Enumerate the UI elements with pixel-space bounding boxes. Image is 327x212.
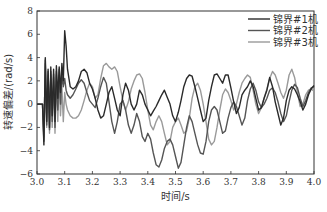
x-tick-label: 3.4 bbox=[141, 177, 156, 187]
chart: 3.03.13.23.33.43.53.63.73.83.94.0 86420−… bbox=[0, 0, 327, 212]
x-tick-label: 4.0 bbox=[307, 177, 322, 187]
legend-label-2: 锦界#2机 bbox=[273, 24, 318, 36]
series-layer bbox=[37, 31, 314, 168]
y-tick-label: −2 bbox=[20, 122, 33, 132]
x-axis-title: 时间/s bbox=[161, 190, 190, 202]
x-tick-label: 3.9 bbox=[279, 177, 294, 187]
y-tick-label: −4 bbox=[20, 146, 34, 156]
x-tick-label: 3.1 bbox=[58, 177, 72, 187]
y-tick-label: 6 bbox=[27, 29, 33, 39]
x-tick-label: 3.2 bbox=[85, 177, 99, 187]
y-axis-title: 转速偏差/(rad/s) bbox=[2, 54, 14, 130]
series-line-2 bbox=[37, 60, 314, 168]
x-tick-label: 3.5 bbox=[168, 177, 183, 187]
x-tick-label: 3.3 bbox=[113, 177, 128, 187]
y-tick-label: 8 bbox=[27, 6, 33, 16]
legend-label-1: 锦界#1机 bbox=[273, 13, 318, 25]
y-tick-label: 4 bbox=[27, 53, 33, 63]
y-tick-label: 2 bbox=[27, 76, 33, 86]
x-tick-label: 3.7 bbox=[224, 177, 239, 187]
series-line-1 bbox=[37, 31, 314, 145]
legend-label-3: 锦界#3机 bbox=[273, 36, 318, 48]
x-tick-label: 3.6 bbox=[196, 177, 211, 187]
y-tick-label: 0 bbox=[27, 99, 33, 109]
x-tick-label: 3.8 bbox=[251, 177, 266, 187]
x-axis-ticks: 3.03.13.23.33.43.53.63.73.83.94.0 bbox=[30, 171, 322, 187]
series-line-3 bbox=[37, 63, 314, 144]
legend: 锦界#1机锦界#2机锦界#3机 bbox=[248, 13, 318, 48]
y-tick-label: −6 bbox=[20, 169, 34, 179]
